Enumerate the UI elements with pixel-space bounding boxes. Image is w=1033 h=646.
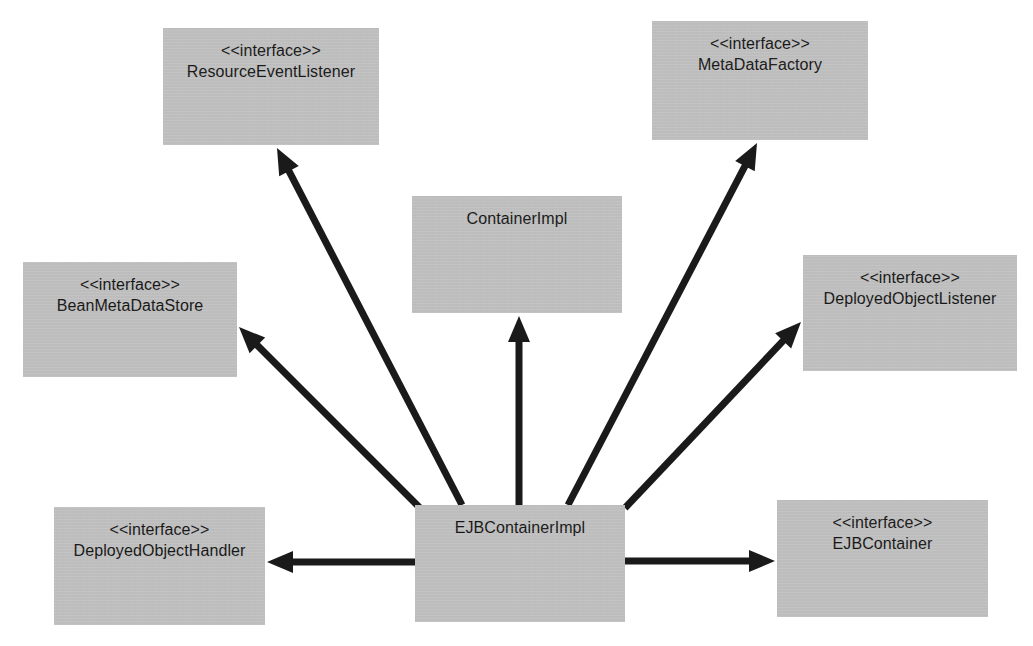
stereotype-label: <<interface>>	[860, 267, 960, 288]
uml-class-deployed-object-handler[interactable]: <<interface>>DeployedObjectHandler	[54, 507, 265, 625]
edge-to-ejb-container-arrowhead	[749, 550, 775, 572]
stereotype-label: <<interface>>	[109, 519, 209, 540]
edge-to-deployed-object-listener-shaft	[625, 339, 785, 508]
class-name-label: ResourceEventListener	[187, 61, 355, 82]
edge-to-deployed-object-listener	[625, 322, 801, 508]
uml-class-bean-meta-data-store[interactable]: <<interface>>BeanMetaDataStore	[23, 262, 237, 377]
uml-class-diagram: <<interface>>ResourceEventListener<<inte…	[0, 0, 1033, 646]
class-name-label: BeanMetaDataStore	[57, 295, 204, 316]
uml-class-meta-data-factory[interactable]: <<interface>>MetaDataFactory	[652, 21, 868, 140]
uml-class-container-impl[interactable]: ContainerImpl	[412, 196, 622, 313]
class-name-label: DeployedObjectListener	[824, 288, 997, 309]
uml-class-resource-event-listener[interactable]: <<interface>>ResourceEventListener	[163, 28, 379, 145]
edge-to-deployed-object-handler	[267, 551, 415, 573]
class-name-label: EJBContainer	[833, 533, 933, 554]
edge-to-meta-data-factory-arrowhead	[735, 143, 757, 171]
class-name-label: MetaDataFactory	[698, 54, 822, 75]
edge-to-container-impl-arrowhead	[508, 316, 530, 342]
stereotype-label: <<interface>>	[710, 33, 810, 54]
stereotype-label: <<interface>>	[80, 274, 180, 295]
stereotype-label: <<interface>>	[221, 40, 321, 61]
class-name-label: EJBContainerImpl	[455, 517, 586, 538]
edge-to-container-impl	[508, 316, 530, 505]
edge-to-ejb-container	[625, 550, 775, 572]
uml-class-ejb-container-impl[interactable]: EJBContainerImpl	[415, 505, 625, 622]
edge-to-resource-event-listener-arrowhead	[277, 148, 299, 176]
edge-to-bean-meta-data-store-shaft	[255, 343, 420, 508]
uml-class-deployed-object-listener[interactable]: <<interface>>DeployedObjectListener	[803, 255, 1017, 371]
edge-to-bean-meta-data-store-arrowhead	[239, 327, 265, 353]
edge-to-deployed-object-handler-arrowhead	[267, 551, 293, 573]
class-name-label: ContainerImpl	[467, 208, 568, 229]
stereotype-label: <<interface>>	[832, 512, 932, 533]
edge-to-deployed-object-listener-arrowhead	[775, 322, 801, 348]
class-name-label: DeployedObjectHandler	[74, 540, 246, 561]
uml-class-ejb-container[interactable]: <<interface>>EJBContainer	[777, 500, 988, 617]
edge-to-bean-meta-data-store	[239, 327, 420, 508]
